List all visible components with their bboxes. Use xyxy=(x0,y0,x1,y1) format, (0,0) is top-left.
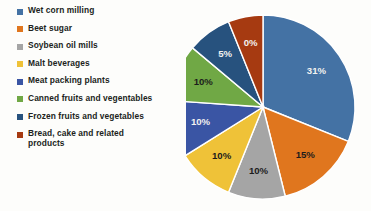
legend-item-label: Wet corn milling xyxy=(28,6,94,15)
legend-item-label: Canned fruits and vegentables xyxy=(28,94,152,103)
legend-item[interactable]: Bread, cake and related products xyxy=(17,129,190,148)
pie-slice-label: 0% xyxy=(244,37,258,48)
legend-item-label: Malt beverages xyxy=(28,59,90,68)
legend-swatch-icon xyxy=(17,26,23,32)
legend-item[interactable]: Wet corn milling xyxy=(17,6,190,15)
pie-slice-label: 10% xyxy=(249,165,269,176)
pie-slice-label: 15% xyxy=(296,149,316,160)
legend-swatch-icon xyxy=(17,9,23,15)
pie-chart-plot-area: 31%15%10%10%10%10%5%0% xyxy=(186,0,371,211)
legend-item-label: Bread, cake and related products xyxy=(28,129,124,148)
legend-item[interactable]: Beet sugar xyxy=(17,24,190,33)
pie-chart-figure: Wet corn millingBeet sugarSoybean oil mi… xyxy=(0,0,371,211)
legend-item[interactable]: Meat packing plants xyxy=(17,76,190,85)
pie-slice-label: 10% xyxy=(191,116,211,127)
legend-swatch-icon xyxy=(17,96,23,102)
pie-slice-label: 31% xyxy=(307,65,327,76)
legend-swatch-icon xyxy=(17,79,23,85)
pie-slice-label: 10% xyxy=(194,76,214,87)
legend-swatch-icon xyxy=(17,61,23,67)
legend-item-label: Soybean oil mills xyxy=(28,41,98,50)
legend-item-label: Frozen fruits and vegetables xyxy=(28,112,144,121)
legend-item[interactable]: Canned fruits and vegentables xyxy=(17,94,190,103)
legend-swatch-icon xyxy=(17,114,23,120)
legend-item[interactable]: Soybean oil mills xyxy=(17,41,190,50)
legend-item[interactable]: Frozen fruits and vegetables xyxy=(17,112,190,121)
legend-item[interactable]: Malt beverages xyxy=(17,59,190,68)
pie-slices-group xyxy=(186,15,355,199)
legend-item-label: Beet sugar xyxy=(28,24,72,33)
legend-item-label: Meat packing plants xyxy=(28,76,110,85)
pie-slice-label: 5% xyxy=(218,48,232,59)
pie-slice-label: 10% xyxy=(212,150,232,161)
legend-swatch-icon xyxy=(17,132,23,138)
chart-legend: Wet corn millingBeet sugarSoybean oil mi… xyxy=(0,0,190,211)
pie-chart-svg: 31%15%10%10%10%10%5%0% xyxy=(186,0,371,211)
legend-swatch-icon xyxy=(17,44,23,50)
